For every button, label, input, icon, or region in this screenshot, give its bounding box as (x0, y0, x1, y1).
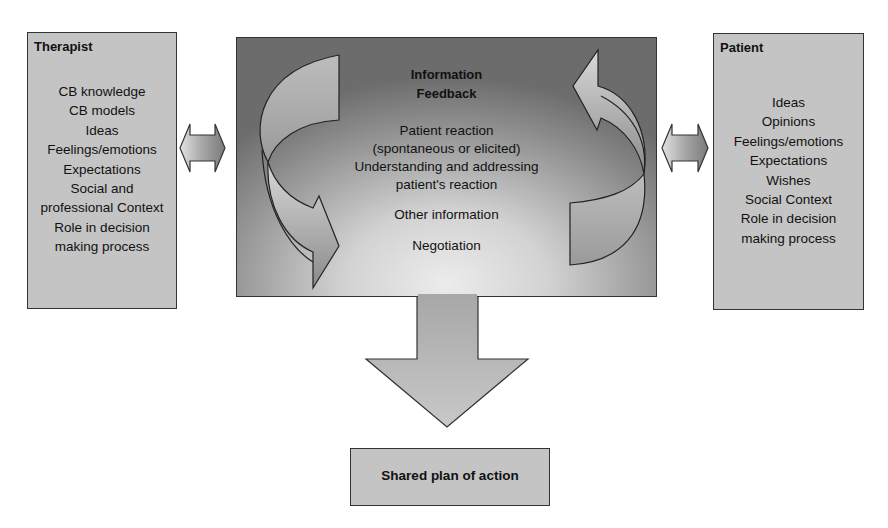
therapist-item: Social and (28, 179, 176, 198)
center-title-line-2: Feedback (237, 84, 656, 103)
therapist-title: Therapist (34, 39, 93, 54)
center-line: (spontaneous or elicited) (237, 140, 656, 158)
double-arrow-icon-right (662, 124, 708, 172)
therapist-item: professional Context (28, 198, 176, 217)
therapist-item: Feelings/emotions (28, 140, 176, 159)
patient-item: Wishes (714, 171, 863, 190)
therapist-item: Expectations (28, 160, 176, 179)
patient-item: Ideas (714, 93, 863, 112)
double-arrow-icon-left (180, 124, 225, 172)
patient-item: Feelings/emotions (714, 132, 863, 151)
patient-title: Patient (720, 40, 763, 55)
shared-plan-label: Shared plan of action (351, 468, 549, 483)
patient-item: Expectations (714, 151, 863, 170)
patient-attributes: Ideas Opinions Feelings/emotions Expecta… (714, 93, 863, 248)
patient-item: Social Context (714, 190, 863, 209)
therapist-attributes: CB knowledge CB models Ideas Feelings/em… (28, 82, 176, 257)
down-arrow-icon (366, 294, 528, 427)
center-line: patient's reaction (237, 176, 656, 194)
therapist-box: Therapist CB knowledge CB models Ideas F… (27, 32, 177, 309)
patient-item: making process (714, 229, 863, 248)
center-other-information: Other information (237, 206, 656, 224)
therapist-item: making process (28, 237, 176, 256)
center-title: Information Feedback (237, 65, 656, 103)
center-line: Patient reaction (237, 122, 656, 140)
patient-item: Role in decision (714, 209, 863, 228)
shared-plan-box: Shared plan of action (350, 448, 550, 506)
center-line: Understanding and addressing (237, 158, 656, 176)
therapist-item: CB models (28, 101, 176, 120)
information-feedback-box: Information Feedback Patient reaction (s… (236, 37, 657, 297)
patient-box: Patient Ideas Opinions Feelings/emotions… (713, 33, 864, 310)
center-negotiation: Negotiation (237, 237, 656, 255)
center-title-line-1: Information (237, 65, 656, 84)
therapist-item: CB knowledge (28, 82, 176, 101)
therapist-item: Ideas (28, 121, 176, 140)
patient-item: Opinions (714, 112, 863, 131)
therapist-item: Role in decision (28, 218, 176, 237)
